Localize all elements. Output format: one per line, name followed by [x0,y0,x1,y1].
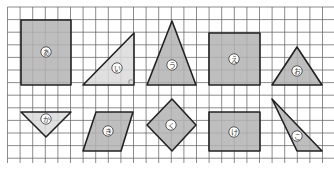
shape-label: こ [292,131,302,141]
shape-label: か [41,114,51,124]
shape-label: け [229,127,239,137]
shape-label: え [229,54,239,64]
grid-paper-diagram: あいうえおかきくけこ [0,0,334,169]
label-text: え [231,56,238,64]
label-text: き [105,128,112,136]
shape-label: お [292,66,302,76]
shape-label: く [166,120,176,130]
label-text: い [114,65,121,73]
shapes-layer [21,20,322,151]
label-text: こ [294,133,301,141]
grid-figure: あいうえおかきくけこ [0,0,334,169]
shape-label: き [103,126,113,136]
label-text: か [43,116,50,124]
shape-label: あ [41,47,51,57]
shape-isosceles-triangle [147,21,196,85]
label-text: け [231,129,238,137]
shape-label: い [112,63,122,73]
label-text: あ [43,49,50,57]
label-text: く [168,122,175,130]
shape-label: う [167,60,177,70]
label-text: お [294,68,301,76]
label-text: う [169,62,176,70]
